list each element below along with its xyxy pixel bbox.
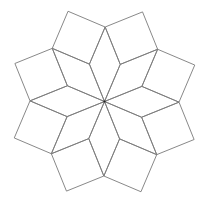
star-diagram bbox=[0, 0, 208, 202]
rhombus bbox=[89, 27, 120, 102]
square bbox=[51, 139, 103, 191]
rhombus bbox=[51, 102, 104, 154]
square bbox=[142, 102, 194, 154]
rhombus bbox=[89, 102, 120, 177]
center-point bbox=[103, 100, 105, 102]
rhombus bbox=[52, 48, 104, 101]
square bbox=[142, 49, 195, 102]
square bbox=[15, 48, 67, 100]
square bbox=[52, 11, 105, 64]
square bbox=[104, 139, 157, 192]
square bbox=[14, 101, 67, 154]
rhombus bbox=[30, 86, 105, 117]
rhombus bbox=[105, 102, 157, 155]
rhombus bbox=[105, 49, 158, 101]
square bbox=[105, 12, 157, 64]
rhombus bbox=[105, 86, 180, 117]
